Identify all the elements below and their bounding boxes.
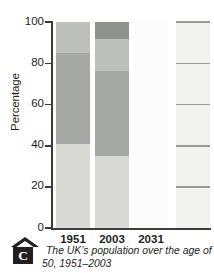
y-tick-label-40: 40: [4, 139, 44, 151]
figure-chart: Percentage 100 80 60 40 20 0 1951 2003 2…: [0, 0, 214, 273]
y-tick-0: [45, 227, 52, 229]
y-axis-line: [51, 21, 53, 229]
extra-bar-rule-100: [176, 21, 210, 23]
marker-box: C: [13, 247, 33, 264]
bar-segment: [95, 156, 129, 228]
bar-segment: [56, 53, 90, 144]
y-tick-40: [45, 145, 52, 147]
figure-marker-letter: C: [18, 249, 28, 263]
bar-2003: [95, 22, 129, 228]
y-tick-100: [45, 21, 52, 23]
bar-segment: [56, 22, 90, 53]
bar-segment: [176, 22, 210, 228]
figure-caption-text: The UK’s population over the age of 50, …: [42, 244, 214, 270]
bar-segment: [56, 144, 90, 228]
y-tick-label-0: 0: [4, 222, 44, 234]
bar-1951: [56, 22, 90, 228]
bar-2031: [134, 22, 168, 228]
x-axis-line: [51, 228, 211, 230]
bar-segment: [95, 39, 129, 72]
plot-area: Percentage 100 80 60 40 20 0 1951 2003 2…: [0, 0, 214, 232]
y-tick-label-60: 60: [4, 98, 44, 110]
y-tick-label-100: 100: [4, 16, 44, 28]
extra-bar-rule-40: [176, 145, 210, 147]
y-tick-20: [45, 186, 52, 188]
extra-faded-bar: [176, 22, 210, 228]
extra-bar-rule-80: [176, 63, 210, 65]
extra-bar-rule-20: [176, 186, 210, 188]
extra-bar-rule-60: [176, 104, 210, 106]
y-tick-80: [45, 63, 52, 65]
y-tick-label-20: 20: [4, 180, 44, 192]
y-tick-label-80: 80: [4, 57, 44, 69]
figure-marker-home-icon: C: [8, 237, 42, 271]
bar-segment: [134, 22, 168, 228]
bar-segment: [95, 22, 129, 38]
bar-segment: [95, 71, 129, 155]
figure-caption-block: C The UK’s population over the age of 50…: [4, 243, 214, 273]
y-tick-60: [45, 104, 52, 106]
